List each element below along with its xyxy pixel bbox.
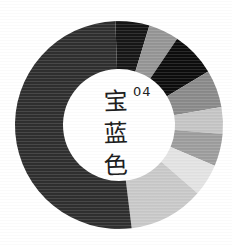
- page: 宝 蓝 色 04: [0, 0, 232, 247]
- donut-chart: [0, 0, 232, 247]
- donut-segment-charcoal-main: [15, 21, 132, 229]
- donut-chart-wrap: [0, 0, 232, 247]
